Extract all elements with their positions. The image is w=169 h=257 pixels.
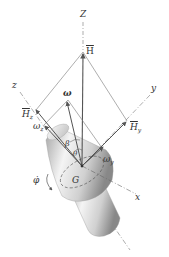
label-z: z (12, 81, 17, 90)
gyroscope-diagram: Z H z y x ω Hz Hy ωz ωy β θ φ̇ G (0, 0, 169, 257)
label-phi-dot: φ̇ (33, 176, 39, 185)
label-y: y (151, 84, 156, 93)
G-point (81, 165, 84, 168)
label-omega-z: ωz (33, 122, 44, 132)
label-theta: θ (73, 151, 77, 158)
label-Z: Z (80, 10, 86, 19)
label-omega: ω (63, 89, 72, 98)
label-x: x (135, 193, 140, 202)
phi-dot-arrow (47, 174, 52, 190)
label-Hy: Hy (130, 123, 141, 133)
diagram-graphic (0, 0, 169, 257)
label-omega-y: ωy (103, 155, 114, 165)
label-H: H (86, 47, 94, 56)
label-Hz: Hz (22, 110, 33, 120)
label-beta: β (65, 140, 70, 148)
label-G: G (72, 176, 79, 185)
